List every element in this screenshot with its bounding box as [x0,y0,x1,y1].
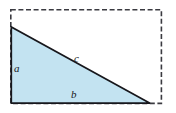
geometry-figure: a c b [0,0,176,113]
side-label-c: c [74,53,79,64]
side-label-a: a [14,63,20,74]
side-label-b: b [71,89,77,100]
figure-canvas [0,0,176,113]
right-triangle-shape [11,27,150,103]
